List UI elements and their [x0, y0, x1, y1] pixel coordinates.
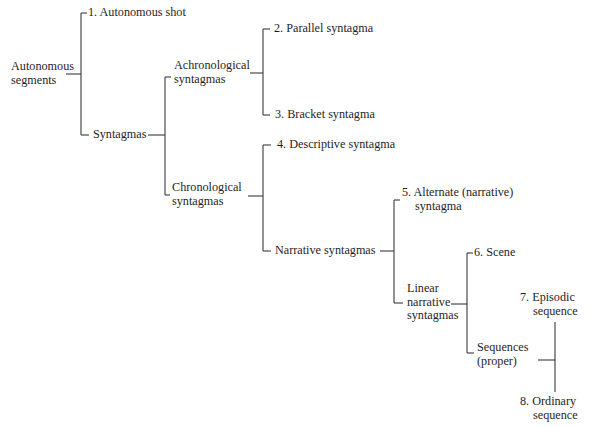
node-narrative-syntagmas: Narrative syntagmas — [275, 244, 376, 258]
node-linear-narrative-syntagmas: Linear narrative syntagmas — [407, 282, 458, 323]
node-autonomous-segments: Autonomous segments — [11, 60, 74, 87]
node-sequences-proper: Sequences (proper) — [477, 341, 528, 368]
node-chronological-syntagmas: Chronological syntagmas — [172, 181, 242, 208]
node-bracket-syntagma: 3. Bracket syntagma — [275, 108, 375, 122]
node-parallel-syntagma: 2. Parallel syntagma — [274, 22, 373, 36]
node-syntagmas: Syntagmas — [93, 128, 147, 142]
node-episodic-sequence: 7. Episodic sequence — [520, 291, 578, 318]
node-descriptive-syntagma: 4. Descriptive syntagma — [277, 138, 395, 152]
node-ordinary-sequence: 8. Ordinary sequence — [520, 395, 578, 422]
node-achronological-syntagmas: Achronological syntagmas — [174, 59, 250, 86]
node-scene: 6. Scene — [474, 246, 515, 260]
node-autonomous-shot: 1. Autonomous shot — [88, 6, 186, 20]
syntagma-tree-diagram: Autonomous segments 1. Autonomous shot S… — [0, 0, 591, 426]
node-alternate-syntagma: 5. Alternate (narrative) syntagma — [402, 186, 513, 213]
